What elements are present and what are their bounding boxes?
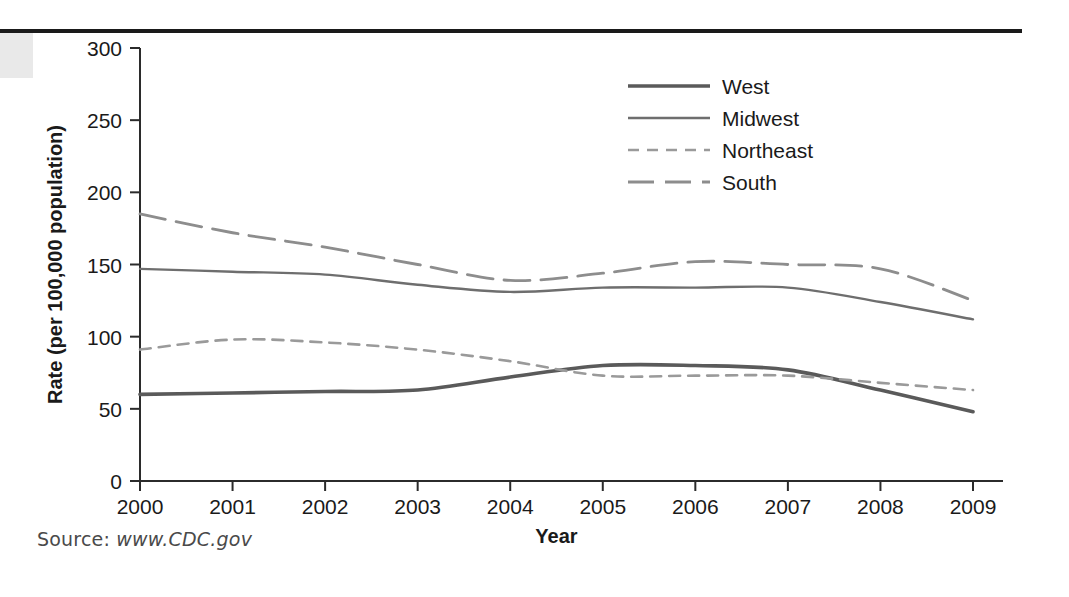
axes-group: 0501001502002503002000200120022003200420… [87, 37, 1003, 518]
y-tick-label: 150 [87, 254, 122, 277]
x-tick-label: 2003 [394, 495, 441, 518]
line-chart: 0501001502002503002000200120022003200420… [0, 0, 1069, 597]
x-axis-title: Year [535, 525, 577, 547]
y-tick-label: 300 [87, 37, 122, 60]
x-tick-label: 2004 [487, 495, 534, 518]
source-url-text: www.CDC.gov [116, 528, 252, 550]
series-line-midwest [140, 269, 973, 320]
x-tick-label: 2009 [950, 495, 997, 518]
legend-label-south: South [722, 171, 777, 194]
axis-titles-group: YearRate (per 100,000 population) [44, 125, 578, 547]
legend-label-midwest: Midwest [722, 107, 799, 130]
y-tick-label: 250 [87, 109, 122, 132]
series-group [140, 214, 973, 412]
y-axis-title: Rate (per 100,000 population) [44, 125, 66, 404]
x-tick-label: 2008 [857, 495, 904, 518]
y-tick-label: 0 [110, 470, 122, 493]
y-tick-label: 200 [87, 181, 122, 204]
source-note: Source: www.CDC.gov [37, 528, 252, 550]
figure-container: 0501001502002503002000200120022003200420… [0, 0, 1069, 597]
series-line-west [140, 364, 973, 411]
x-tick-label: 2002 [302, 495, 349, 518]
y-tick-label: 100 [87, 326, 122, 349]
legend-label-northeast: Northeast [722, 139, 813, 162]
y-tick-label: 50 [99, 398, 122, 421]
legend-group: WestMidwestNortheastSouth [628, 75, 813, 194]
source-prefix-text: Source: [37, 528, 116, 550]
series-line-south [140, 214, 973, 301]
x-tick-label: 2006 [672, 495, 719, 518]
x-tick-label: 2007 [765, 495, 812, 518]
x-tick-label: 2005 [579, 495, 626, 518]
x-tick-label: 2001 [209, 495, 256, 518]
x-tick-label: 2000 [117, 495, 164, 518]
legend-label-west: West [722, 75, 770, 98]
